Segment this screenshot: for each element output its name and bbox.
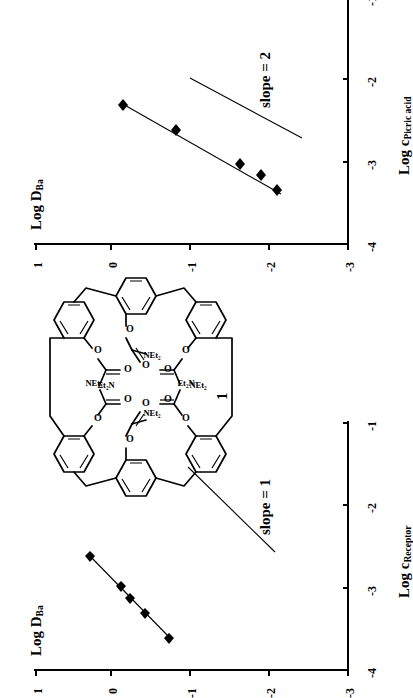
atom-label-carbonyl-o-3: O — [142, 397, 150, 408]
atom-label-carbonyl-o-6: O — [164, 363, 172, 374]
aryl-ring-b — [54, 302, 94, 338]
atom-label-o-2: O — [94, 344, 102, 355]
atom-label-carbonyl-o-2: O — [124, 363, 132, 374]
molecule-label: 1 — [214, 393, 231, 401]
atom-label-o-6: O — [182, 344, 190, 355]
atom-label-o-4: O — [126, 323, 134, 334]
aryl-ring-d — [116, 278, 156, 314]
top-plot-slope-annotation: slope = 2 — [257, 52, 274, 108]
plot-panel-top: -1 -2 -3 -4 Log cPicric acid 1 0 -1 -2 -… — [0, 0, 408, 270]
aryl-ring-f — [186, 302, 226, 338]
bottom-plot-data-layer — [0, 420, 408, 696]
top-plot-point-4 — [256, 169, 266, 181]
bottom-plot-point-5 — [164, 633, 174, 644]
atom-label-carbonyl-o-1: O — [124, 393, 132, 404]
bottom-plot-slope-annotation: slope = 1 — [257, 479, 274, 535]
atom-label-net2-3: NEt₂ — [143, 408, 161, 418]
bottom-plot-point-3 — [125, 593, 135, 604]
plot-panel-bottom: -1 -2 -3 -4 Log cReceptor 1 0 -1 -2 -3 L… — [0, 420, 408, 696]
bottom-plot-point-2 — [116, 581, 126, 592]
bottom-plot-point-4 — [140, 608, 150, 619]
atom-label-carbonyl-o-4: O — [142, 359, 150, 370]
top-plot-guide-line — [190, 78, 302, 138]
top-plot-point-2 — [171, 124, 181, 136]
top-plot-data-layer — [0, 0, 408, 270]
atom-label-net2-4: NEt₂ — [143, 350, 161, 360]
top-plot-fit-line — [121, 103, 281, 194]
atom-label-net2-2: Et₂N — [97, 380, 115, 390]
atom-label-carbonyl-o-5: O — [164, 393, 172, 404]
top-plot-point-1 — [118, 99, 128, 111]
atom-label-net2-6: NEt₂ — [189, 380, 207, 390]
